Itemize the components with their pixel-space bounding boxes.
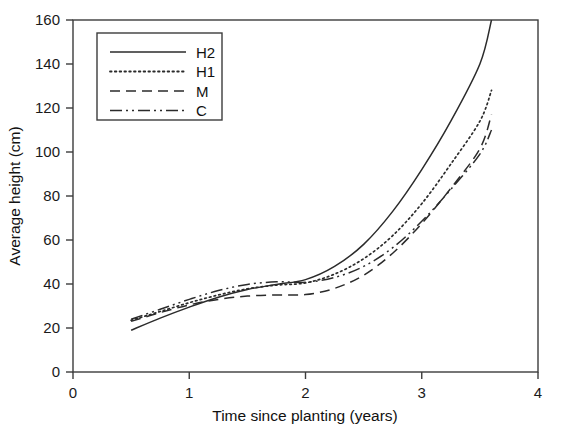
- x-tick-label: 0: [69, 384, 77, 401]
- legend-label-C: C: [196, 102, 207, 119]
- line-chart: 01234 020406080100120140160 Time since p…: [0, 0, 569, 437]
- y-tick-label: 0: [52, 363, 60, 380]
- legend: H2H1MC: [97, 33, 222, 120]
- x-tick-label: 3: [418, 384, 426, 401]
- x-axis-ticks: [73, 372, 538, 379]
- series-line-C: [131, 130, 491, 319]
- x-axis-tick-labels: 01234: [69, 384, 542, 401]
- y-tick-label: 80: [43, 187, 60, 204]
- x-tick-label: 1: [185, 384, 193, 401]
- y-tick-label: 20: [43, 319, 60, 336]
- y-tick-label: 40: [43, 275, 60, 292]
- x-tick-label: 2: [301, 384, 309, 401]
- y-tick-label: 140: [35, 55, 60, 72]
- y-tick-label: 60: [43, 231, 60, 248]
- x-axis-title: Time since planting (years): [212, 407, 398, 424]
- chart-figure: 01234 020406080100120140160 Time since p…: [0, 0, 569, 437]
- y-axis-tick-labels: 020406080100120140160: [35, 11, 60, 380]
- legend-label-H2: H2: [196, 44, 215, 61]
- legend-label-M: M: [196, 83, 209, 100]
- y-axis-ticks: [66, 20, 73, 372]
- x-tick-label: 4: [534, 384, 542, 401]
- y-tick-label: 160: [35, 11, 60, 28]
- y-tick-label: 100: [35, 143, 60, 160]
- y-axis-title: Average height (cm): [6, 126, 23, 265]
- y-tick-label: 120: [35, 99, 60, 116]
- legend-label-H1: H1: [196, 63, 215, 80]
